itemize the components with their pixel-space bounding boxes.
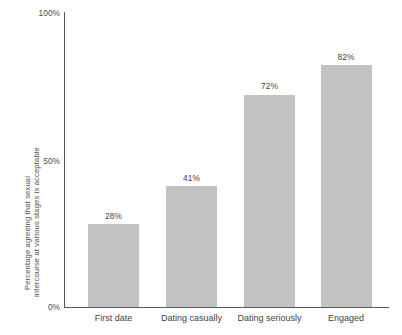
plot-area: 28%41%72%82%	[64, 12, 389, 307]
x-axis-line	[64, 307, 389, 308]
y-axis-tick-labels: 100% 50% 0%	[30, 0, 60, 310]
x-axis-label-2: Dating casually	[161, 314, 222, 323]
y-axis-title: Percentage agreeing that sexual intercou…	[0, 0, 34, 310]
bar-value-label-1: 28%	[105, 212, 122, 220]
x-axis-label-1: First date	[95, 314, 133, 323]
y-axis-tick-label-50: 50%	[30, 157, 60, 165]
bar-3: 72%	[244, 95, 295, 307]
bar-value-label-2: 41%	[183, 174, 200, 182]
x-axis-category-labels: First dateDating casuallyDating seriousl…	[64, 311, 389, 331]
x-axis-label-3: Dating seriously	[237, 314, 301, 323]
y-axis-tick-label-100: 100%	[30, 9, 60, 17]
bar-value-label-3: 72%	[261, 82, 278, 90]
bar-1: 28%	[88, 224, 139, 307]
bar-chart-figure: Percentage agreeing that sexual intercou…	[0, 0, 402, 335]
bar-4: 82%	[321, 65, 372, 307]
bar-value-label-4: 82%	[338, 53, 355, 61]
bar-2: 41%	[166, 186, 217, 307]
y-axis-tick-label-0: 0%	[30, 303, 60, 311]
x-axis-label-4: Engaged	[328, 314, 364, 323]
